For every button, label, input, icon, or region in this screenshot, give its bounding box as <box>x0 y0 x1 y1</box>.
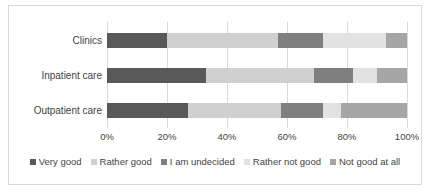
bar-segment[interactable] <box>278 33 323 48</box>
legend-label: Not good at all <box>339 156 400 167</box>
bar-segment[interactable] <box>188 103 281 118</box>
y-axis-label-outpatient-care: Outpatient care <box>16 103 102 118</box>
legend-item[interactable]: Rather not good <box>244 156 321 167</box>
plot-area <box>107 22 407 128</box>
x-axis-tick-label: 40% <box>217 131 236 142</box>
legend-swatch-icon <box>91 159 97 165</box>
bar-segment[interactable] <box>323 103 341 118</box>
legend-swatch-icon <box>244 159 250 165</box>
bar-segment[interactable] <box>386 33 407 48</box>
legend-item[interactable]: Not good at all <box>330 156 400 167</box>
x-axis-tick-label: 60% <box>277 131 296 142</box>
bar-segment[interactable] <box>107 103 188 118</box>
legend-swatch-icon <box>330 159 336 165</box>
bar-segment[interactable] <box>107 33 167 48</box>
bar-segment[interactable] <box>281 103 323 118</box>
x-axis-tick-label: 80% <box>337 131 356 142</box>
gridline <box>407 22 408 128</box>
legend-item[interactable]: I am undecided <box>161 156 235 167</box>
bar-segment[interactable] <box>323 33 386 48</box>
legend-label: Very good <box>39 156 82 167</box>
bar-row[interactable] <box>107 68 407 83</box>
legend-label: Rather not good <box>253 156 321 167</box>
chart-frame: Clinics Inpatient care Outpatient care 0… <box>8 5 422 185</box>
y-axis-label-clinics: Clinics <box>16 33 102 48</box>
bar-segment[interactable] <box>107 68 206 83</box>
bar-segment[interactable] <box>167 33 278 48</box>
legend-item[interactable]: Very good <box>30 156 82 167</box>
legend-swatch-icon <box>30 159 36 165</box>
x-axis-tick-label: 0% <box>100 131 114 142</box>
bar-segment[interactable] <box>341 103 407 118</box>
x-axis-tick-label: 100% <box>395 131 419 142</box>
bar-segment[interactable] <box>377 68 407 83</box>
legend-label: I am undecided <box>170 156 235 167</box>
legend-label: Rather good <box>100 156 152 167</box>
x-axis-tick-labels: 0%20%40%60%80%100% <box>107 131 407 145</box>
legend-swatch-icon <box>161 159 167 165</box>
chart-legend: Very goodRather goodI am undecidedRather… <box>9 156 421 167</box>
y-axis-label-inpatient-care: Inpatient care <box>16 68 102 83</box>
bar-segment[interactable] <box>206 68 314 83</box>
bar-segment[interactable] <box>314 68 353 83</box>
x-axis-tick-label: 20% <box>157 131 176 142</box>
bar-row[interactable] <box>107 33 407 48</box>
bar-row[interactable] <box>107 103 407 118</box>
y-axis-category-labels: Clinics Inpatient care Outpatient care <box>9 22 102 128</box>
legend-item[interactable]: Rather good <box>91 156 152 167</box>
bar-segment[interactable] <box>353 68 377 83</box>
